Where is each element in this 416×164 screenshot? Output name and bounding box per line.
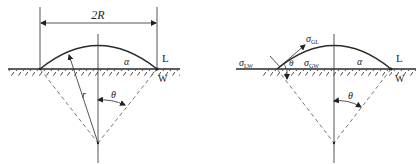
right-panel: σLW σGL θ σGW θ α L W (236, 33, 416, 163)
liquid-label-left: L (162, 52, 169, 64)
drop-label-right: α (357, 56, 363, 67)
dimension-label: 2R (91, 8, 105, 22)
liquid-wall-tension-label: σLW (239, 57, 253, 69)
contact-angle-label-right: θ (289, 58, 294, 68)
dimension-2r: 2R (40, 7, 157, 69)
solid-surface-left (8, 69, 180, 76)
solid-surface-right (236, 69, 416, 76)
left-panel: 2R r θ α L W (8, 7, 180, 163)
gas-wall-tension-label: σGW (304, 57, 319, 69)
radius-label: r (82, 89, 86, 100)
angle-theta-label-right: θ (348, 90, 353, 101)
drop-profile-left (40, 46, 157, 70)
gas-liquid-tension-label: σGL (306, 33, 319, 45)
solid-label-right: W (395, 73, 405, 84)
angle-theta-label-left: θ (111, 89, 116, 100)
solid-label-left: W (158, 73, 168, 84)
drop-label-left: α (124, 56, 130, 67)
liquid-label-right: L (396, 52, 403, 64)
diagram-canvas: 2R r θ α L W (0, 0, 416, 164)
